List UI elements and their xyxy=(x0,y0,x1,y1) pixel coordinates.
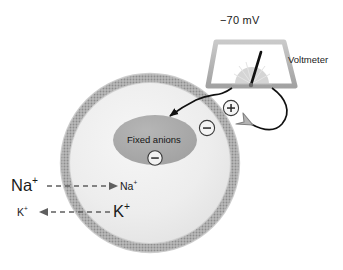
potassium-outside-charge: + xyxy=(24,205,28,212)
membrane-inner-negative-charge xyxy=(199,120,214,135)
fixed-anions-label: Fixed anions xyxy=(127,135,181,145)
potassium-inside-label: K+ xyxy=(113,202,130,219)
voltmeter-needle-pivot xyxy=(249,83,253,87)
potassium-outside-label: K+ xyxy=(17,206,28,217)
voltmeter-label: Voltmeter xyxy=(288,55,328,65)
voltmeter[interactable] xyxy=(208,42,295,87)
sodium-outside-charge: + xyxy=(32,175,38,186)
membrane-outer-positive-charge xyxy=(223,100,238,115)
sodium-outside-symbol: Na xyxy=(11,176,32,194)
sodium-inside-charge: + xyxy=(133,179,137,186)
voltmeter-reading: −70 mV xyxy=(220,15,259,26)
anion-charge-marker xyxy=(148,151,162,165)
extracellular-electrode-arrowhead xyxy=(236,113,253,125)
extracellular-electrode-wire xyxy=(251,88,287,130)
potassium-inside-symbol: K xyxy=(113,202,124,220)
sodium-inside-symbol: Na xyxy=(120,180,133,192)
sodium-outside-label: Na+ xyxy=(11,176,38,193)
potassium-inside-charge: + xyxy=(124,201,130,212)
sodium-inside-label: Na+ xyxy=(120,180,137,191)
diagram-canvas: −70 mV Voltmeter Fixed anions Na+ Na+ K+… xyxy=(0,0,343,270)
potassium-outside-symbol: K xyxy=(17,206,24,218)
